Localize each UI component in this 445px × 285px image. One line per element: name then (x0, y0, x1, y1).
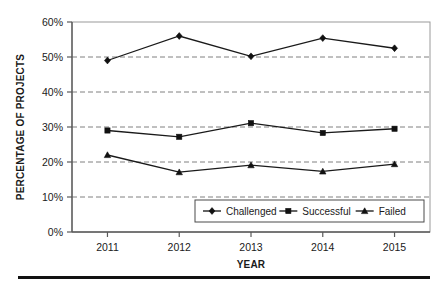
line-chart: 0%10%20%30%40%50%60% 2011201220132014201… (0, 0, 445, 285)
y-tick-label: 40% (42, 86, 63, 98)
bottom-divider-rule (18, 276, 430, 279)
x-tick-label: 2013 (239, 241, 263, 253)
square-marker-icon (320, 130, 325, 135)
x-tick-label: 2011 (96, 241, 119, 253)
y-tick-label: 0% (48, 226, 63, 238)
x-tick-label: 2014 (311, 241, 335, 253)
square-marker-icon (105, 128, 110, 133)
legend-label: Challenged (226, 206, 277, 217)
y-axis-title: PERCENTAGE OF PROJECTS (15, 54, 26, 201)
x-tick-label: 2012 (168, 241, 192, 253)
chart-background (0, 0, 445, 285)
legend-label: Successful (302, 206, 350, 217)
legend-label: Failed (379, 206, 406, 217)
square-marker-icon (392, 126, 397, 131)
y-tick-label: 30% (42, 121, 63, 133)
chart-legend[interactable]: ChallengedSuccessfulFailed (195, 200, 424, 222)
chart-figure: 0%10%20%30%40%50%60% 2011201220132014201… (0, 0, 445, 285)
y-tick-label: 20% (42, 156, 63, 168)
square-marker-icon (248, 121, 253, 126)
square-marker-icon (177, 134, 182, 139)
square-marker-icon (286, 208, 291, 213)
x-tick-label: 2015 (383, 241, 407, 253)
y-tick-label: 60% (42, 16, 63, 28)
x-axis-title: YEAR (237, 259, 266, 270)
y-tick-label: 10% (42, 191, 63, 203)
y-tick-label: 50% (42, 51, 63, 63)
